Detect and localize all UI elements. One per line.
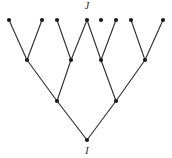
tree-node (85, 138, 89, 142)
tree-graph-canvas (0, 0, 172, 158)
tree-diagram-figure: J I (0, 0, 172, 158)
tree-edge (9, 20, 27, 60)
node-label-i: I (85, 146, 88, 156)
tree-node (85, 18, 89, 22)
tree-edge (57, 101, 87, 140)
tree-node (129, 18, 133, 22)
tree-edge (101, 20, 116, 60)
tree-node (161, 18, 165, 22)
tree-edge (101, 60, 116, 101)
tree-node (55, 18, 59, 22)
tree-node (25, 58, 29, 62)
tree-edge (57, 60, 71, 101)
tree-node (69, 58, 73, 62)
tree-edge (87, 101, 116, 140)
tree-edge (71, 20, 87, 60)
tree-edge (145, 20, 163, 60)
tree-edge (27, 20, 42, 60)
tree-node (55, 99, 59, 103)
edge-layer (9, 20, 163, 140)
tree-node (7, 18, 11, 22)
tree-edge (87, 20, 101, 60)
node-label-j: J (85, 1, 89, 11)
tree-edge (116, 60, 145, 101)
tree-edge (27, 60, 57, 101)
tree-node (143, 58, 147, 62)
tree-node (40, 18, 44, 22)
node-layer (7, 18, 165, 142)
tree-node (114, 18, 118, 22)
tree-edge (131, 20, 145, 60)
tree-edge (57, 20, 71, 60)
tree-node (99, 18, 103, 22)
tree-node (114, 99, 118, 103)
tree-node (99, 58, 103, 62)
